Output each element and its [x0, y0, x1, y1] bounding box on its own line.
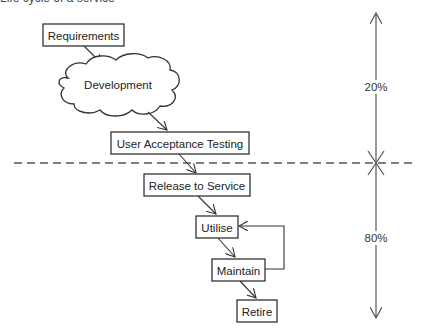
- stage-retire: Retire: [237, 300, 277, 322]
- stage-release-label: Release to Service: [149, 180, 246, 192]
- stage-development: Development: [59, 54, 179, 116]
- stage-requirements-label: Requirements: [48, 30, 120, 42]
- arrow-maintain-retire: [240, 281, 256, 298]
- arrow-release-utilise: [198, 196, 216, 214]
- lower-percent-label: 80%: [364, 232, 387, 244]
- upper-percent-label: 20%: [364, 81, 387, 93]
- stage-utilise: Utilise: [196, 216, 238, 238]
- stage-uat-label: User Acceptance Testing: [117, 138, 243, 150]
- arrow-utilise-maintain: [218, 238, 235, 257]
- stage-uat: User Acceptance Testing: [111, 132, 249, 154]
- lifecycle-diagram: Requirements Development User Acceptance…: [0, 0, 427, 328]
- stage-release: Release to Service: [144, 174, 250, 196]
- stage-development-label: Development: [84, 79, 153, 91]
- stage-maintain-label: Maintain: [217, 265, 260, 277]
- stage-utilise-label: Utilise: [201, 222, 232, 234]
- arrow-development-uat: [148, 112, 167, 130]
- stage-retire-label: Retire: [242, 306, 273, 318]
- stage-maintain: Maintain: [212, 259, 265, 281]
- stage-requirements: Requirements: [43, 24, 124, 46]
- proportion-axis: 20% 80%: [362, 13, 390, 318]
- arrow-uat-release: [179, 154, 196, 173]
